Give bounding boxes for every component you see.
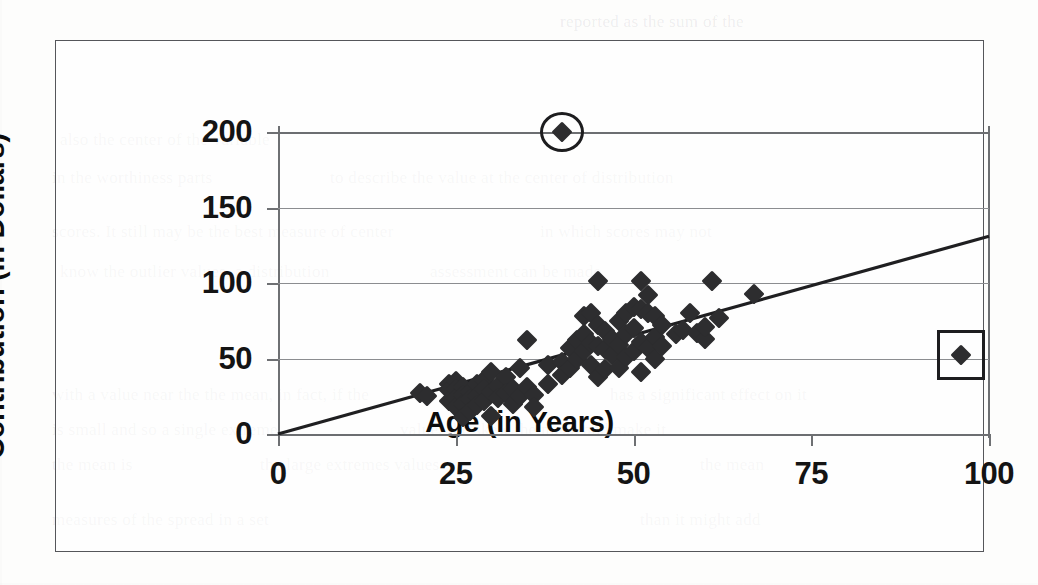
x-tick-label: 75 [795,456,828,492]
y-tick [267,132,278,134]
boxed-outlier [937,330,985,380]
x-tick-label: 100 [964,456,1014,492]
y-tick [267,208,278,210]
y-tick [267,359,278,361]
y-tick [267,283,278,285]
y-tick-label: 0 [235,416,252,452]
x-tick [811,434,813,446]
x-tick [989,434,991,446]
x-tick-label: 50 [617,456,650,492]
ghost-text-line: reported as the sum of the [560,12,744,32]
plot-area [278,132,989,434]
y-tick-label: 50 [219,341,252,377]
y-tick-label: 100 [202,265,252,301]
figure-frame: Contribution (in Dollars) Age (in Years)… [55,40,984,552]
x-tick-label: 25 [439,456,472,492]
x-tick [634,434,636,446]
x-tick [456,434,458,446]
x-tick [278,434,280,446]
scanned-page: reported as the sum of thealso the cente… [0,0,1038,585]
y-tick-label: 200 [202,114,252,150]
circled-outlier [540,112,584,152]
y-tick-label: 150 [202,190,252,226]
x-tick-label: 0 [270,456,287,492]
y-tick [267,434,278,436]
y-axis-title: Contribution (in Dollars) [0,133,11,459]
